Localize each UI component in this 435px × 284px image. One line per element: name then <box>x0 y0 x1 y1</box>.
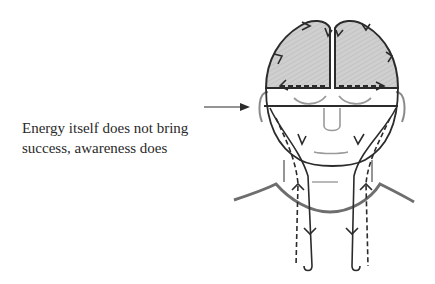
head-illustration <box>0 0 435 284</box>
left-solid-channel <box>270 108 312 271</box>
left-eye <box>294 96 326 104</box>
mouth <box>314 152 348 154</box>
right-eye <box>339 96 371 104</box>
face-outline <box>266 88 398 166</box>
pointer-arrow-icon <box>204 103 250 111</box>
diagram-canvas: Energy itself does not bring success, aw… <box>0 0 435 284</box>
shoulder-line <box>234 184 414 212</box>
nose <box>324 108 340 131</box>
